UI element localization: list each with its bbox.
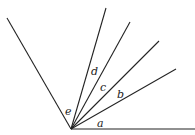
angle-label-b: b — [117, 88, 124, 101]
angle-label-c: c — [100, 81, 106, 94]
angle-label-d: d — [91, 65, 98, 78]
angle-diagram: abcde — [0, 0, 195, 135]
ray-left — [7, 18, 71, 129]
ray-3 — [71, 22, 130, 129]
angle-label-e: e — [65, 105, 72, 118]
angle-label-a: a — [97, 117, 104, 130]
rays-group — [7, 8, 195, 129]
